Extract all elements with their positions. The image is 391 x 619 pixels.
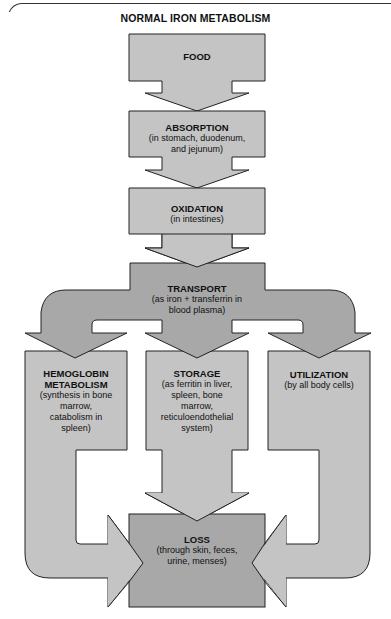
transport-heading: TRANSPORT	[125, 283, 269, 294]
storage-detail-3: marrow,	[143, 401, 251, 412]
hemoglobin-detail-3: catabolism in	[22, 412, 130, 423]
transport-detail-1: (as iron + transferrin in	[125, 294, 269, 305]
hemoglobin-detail-1: (synthesis in bone	[22, 390, 130, 401]
storage-label: STORAGE (as ferritin in liver, spleen, b…	[143, 368, 251, 434]
absorption-label: ABSORPTION (in stomach, duodenum, and je…	[125, 122, 269, 155]
absorption-heading: ABSORPTION	[125, 122, 269, 133]
hemoglobin-detail-2: marrow,	[22, 401, 130, 412]
loss-detail-1: (through skin, feces,	[143, 545, 251, 556]
hemoglobin-label: HEMOGLOBIN METABOLISM (synthesis in bone…	[22, 368, 130, 434]
loss-detail-2: urine, menses)	[143, 556, 251, 567]
absorption-detail-2: and jejunum)	[125, 144, 269, 155]
transport-label: TRANSPORT (as iron + transferrin in bloo…	[125, 283, 269, 316]
hemoglobin-heading-2: METABOLISM	[22, 379, 130, 390]
hemoglobin-detail-4: spleen)	[22, 423, 130, 434]
oxidation-heading: OXIDATION	[129, 203, 265, 214]
utilization-label: UTILIZATION (by all body cells)	[265, 369, 373, 391]
iron-metabolism-diagram: NORMAL IRON METABOLISM	[0, 0, 391, 619]
storage-detail-5: system)	[143, 423, 251, 434]
storage-heading: STORAGE	[143, 368, 251, 379]
utilization-detail-1: (by all body cells)	[265, 380, 373, 391]
oxidation-detail-1: (in intestines)	[129, 214, 265, 225]
oxidation-label: OXIDATION (in intestines)	[129, 203, 265, 225]
food-label: FOOD	[129, 51, 265, 62]
utilization-heading: UTILIZATION	[265, 369, 373, 380]
storage-detail-2: spleen, bone	[143, 390, 251, 401]
storage-detail-1: (as ferritin in liver,	[143, 379, 251, 390]
loss-label: LOSS (through skin, feces, urine, menses…	[143, 534, 251, 567]
hemoglobin-heading-1: HEMOGLOBIN	[22, 368, 130, 379]
food-node-shape	[129, 34, 265, 111]
transport-detail-2: blood plasma)	[125, 305, 269, 316]
absorption-detail-1: (in stomach, duodenum,	[125, 133, 269, 144]
storage-detail-4: reticuloendothelial	[143, 412, 251, 423]
food-heading: FOOD	[129, 51, 265, 62]
loss-heading: LOSS	[143, 534, 251, 545]
